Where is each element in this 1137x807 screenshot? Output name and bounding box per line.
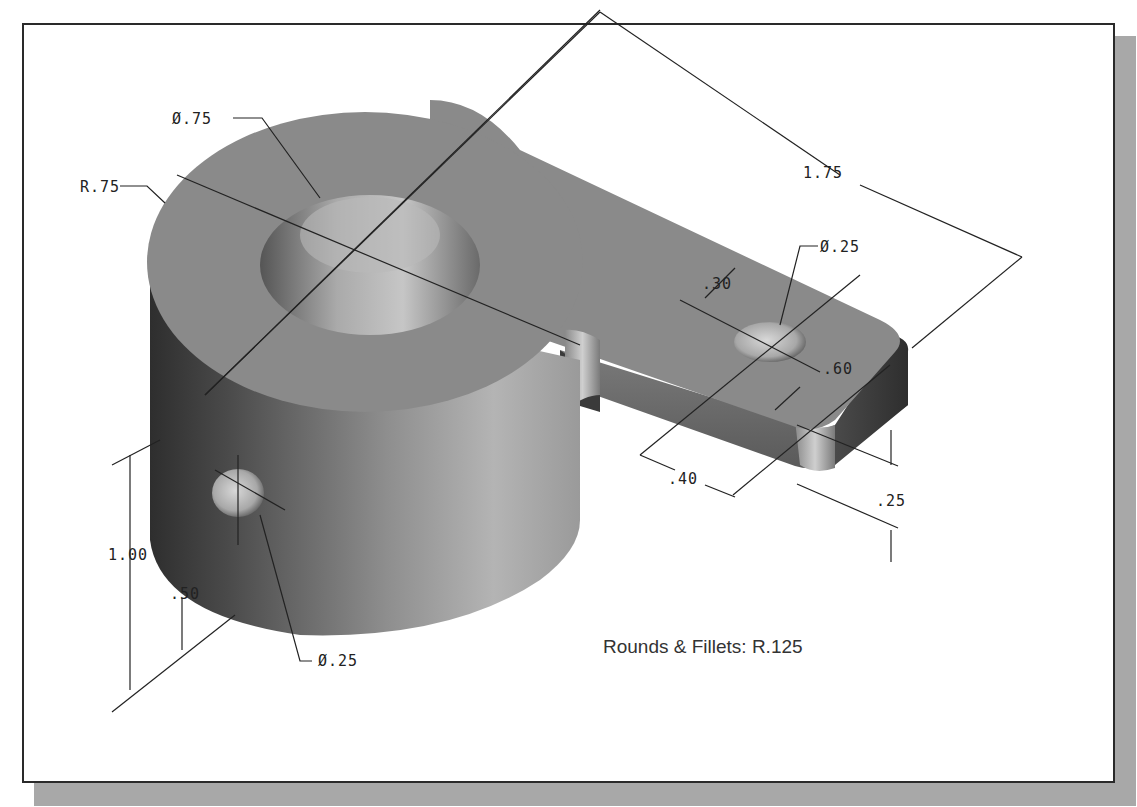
label-arm-hole-to-end: .40 (668, 470, 698, 488)
label-side-hole-diameter: Ø.25 (318, 652, 358, 670)
label-arm-width: .60 (823, 360, 853, 378)
label-bore-diameter: Ø.75 (172, 110, 212, 128)
fillet-note: Rounds & Fillets: R.125 (603, 636, 803, 657)
label-arm-hole-diameter: Ø.25 (820, 238, 860, 256)
label-side-hole-height: .50 (170, 585, 200, 603)
part-drawing: Ø.75 R.75 1.75 Ø.25 .30 .60 .40 .25 1.00… (0, 0, 1137, 807)
label-arm-length: 1.75 (803, 164, 843, 182)
label-cylinder-height: 1.00 (108, 546, 148, 564)
label-outer-radius: R.75 (80, 178, 120, 196)
label-arm-hole-offset: .30 (702, 275, 732, 293)
label-arm-thickness: .25 (876, 492, 906, 510)
